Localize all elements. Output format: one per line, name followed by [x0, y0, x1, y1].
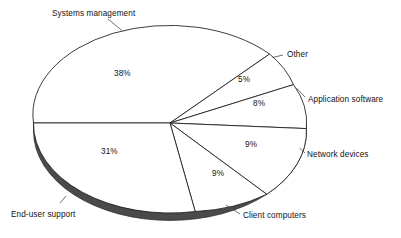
pie-value-network-devices: 9% [245, 141, 257, 149]
pie-chart-figure: Systems management Other Application sof… [0, 0, 401, 238]
leader-line-systems-management [108, 19, 122, 31]
pie-value-systems-management: 38% [114, 70, 131, 78]
pie-chart-graphic [0, 0, 401, 238]
pie-label-application-software: Application software [308, 96, 383, 104]
pie-slices-group [33, 25, 307, 213]
leader-line-other [273, 55, 284, 58]
pie-value-end-user-support: 31% [101, 148, 118, 156]
pie-value-other: 5% [238, 76, 250, 84]
pie-value-application-software: 8% [253, 100, 265, 108]
pie-slice-end-user-support[interactable] [33, 123, 195, 213]
pie-label-other: Other [287, 51, 308, 59]
pie-label-network-devices: Network devices [307, 151, 369, 159]
leader-line-end-user-support [60, 196, 66, 203]
pie-value-client-computers: 9% [212, 170, 224, 178]
pie-label-client-computers: Client computers [243, 212, 306, 220]
pie-label-end-user-support: End-user support [11, 211, 75, 219]
pie-label-systems-management: Systems management [52, 10, 135, 18]
